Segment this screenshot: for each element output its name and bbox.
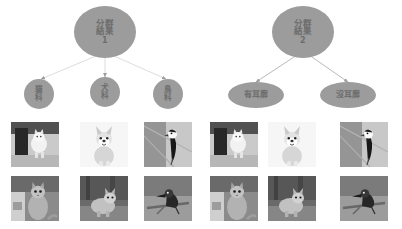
cluster1-edges [41,56,166,79]
cluster2-child-with-pinna-label: 有耳廓 [244,91,269,99]
image-tile-corgi-sitting-white-right[interactable] [268,122,316,167]
cluster1-root-node[interactable]: 分群 結果 1 [74,6,136,58]
cluster1-child-bird-line2: 科 [164,94,171,102]
cluster2-root-number: 2 [300,36,306,45]
cluster1-child-bird[interactable]: 鳥 科 [153,79,183,109]
cluster1-child-cat-line2: 科 [35,94,42,102]
image-tile-corgi-outdoor-grass-right[interactable] [268,176,316,221]
cluster1-root-line2: 結果 [96,27,114,36]
image-tile-kingfisher-on-branch-right[interactable] [340,176,388,221]
cluster1-root-number: 1 [102,36,108,45]
image-tile-cat-standing-doorway-left[interactable] [11,122,59,167]
diagram-canvas: 分群 結果 1 貓 科 犬 科 鳥 科 分群 結果 2 有耳廓 沒耳廓 [0,0,402,229]
image-tile-cat-standing-doorway-right[interactable] [210,122,258,167]
cluster1-child-dog[interactable]: 犬 科 [90,77,120,107]
image-tile-corgi-sitting-white-left[interactable] [80,122,128,167]
image-tile-bird-perched-branch-right[interactable] [340,122,388,167]
image-tile-corgi-outdoor-grass-left[interactable] [80,176,128,221]
cluster2-root-node[interactable]: 分群 結果 2 [272,6,334,58]
cluster2-root-line2: 結果 [294,27,312,36]
cluster2-child-with-pinna[interactable]: 有耳廓 [228,82,284,108]
cluster1-child-cat[interactable]: 貓 科 [24,79,54,109]
cluster2-edges [256,55,348,82]
cluster2-child-without-pinna[interactable]: 沒耳廓 [320,82,376,108]
image-tile-cat-sitting-indoor-left[interactable] [11,176,59,221]
cluster2-child-without-pinna-label: 沒耳廓 [336,91,361,99]
cluster1-child-dog-line2: 科 [101,92,108,100]
image-tile-bird-perched-branch-left[interactable] [144,122,192,167]
image-tile-cat-sitting-indoor-right[interactable] [210,176,258,221]
image-tile-kingfisher-on-branch-left[interactable] [144,176,192,221]
